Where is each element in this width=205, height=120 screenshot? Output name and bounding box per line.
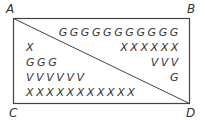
lower-row-1: X [26,42,36,53]
upper-row-2: XXXXXX [120,42,181,53]
upper-row-4: G [170,72,181,83]
corner-label-b: B [187,3,195,15]
upper-row-3: VVV [151,57,181,68]
corner-label-a: A [6,3,14,15]
lower-row-3: VVVVVV [26,72,87,83]
corner-label-d: D [186,107,195,119]
upper-row-1: GGGGGGGGGGG [59,27,181,38]
lower-row-2: GGG [26,57,59,68]
lower-row-4: XXXXXXXXXXX [26,87,138,98]
corner-label-c: C [9,107,17,119]
